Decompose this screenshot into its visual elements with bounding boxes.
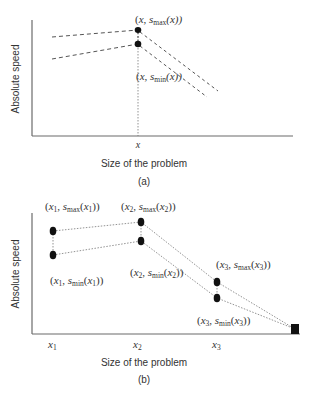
panel-b-x1-min-label: (x1, smin(x1))	[50, 274, 104, 288]
panel-a-caption: (a)	[138, 176, 150, 187]
panel-b-x-axis-label: Size of the problem	[101, 357, 187, 368]
panel-a-x-axis-label: Size of the problem	[101, 158, 187, 169]
panel-b-x3-min-marker	[214, 294, 221, 303]
panel-a-tick-x: x	[135, 139, 141, 150]
panel-b: (x1, smax(x1)) (x1, smin(x1)) (x2, smax(…	[10, 200, 300, 385]
panel-b-x3-min-label: (x3, smin(x3))	[197, 314, 251, 328]
panel-b-y-axis-label: Absolute speed	[10, 240, 21, 309]
panel-b-tick-x3: x3	[211, 338, 221, 352]
panel-a-max-marker	[135, 27, 142, 33]
panel-a: (x, smax(x)) (x, smin(x)) x Size of the …	[10, 13, 293, 187]
panel-a-min-label: (x, smin(x))	[136, 70, 182, 84]
panel-a-max-curve-right	[140, 32, 218, 91]
panel-a-min-curve-left	[52, 44, 138, 59]
panel-b-x2-max-marker	[138, 218, 145, 227]
figure-canvas: (x, smax(x)) (x, smin(x)) x Size of the …	[0, 0, 313, 393]
panel-a-y-axis-label: Absolute speed	[10, 45, 21, 114]
panel-b-x2-min-label: (x2, smin(x2))	[130, 266, 184, 280]
panel-a-min-marker	[135, 41, 142, 47]
panel-b-x2-max-label: (x2, smax(x2))	[121, 200, 176, 214]
panel-a-max-curve-left	[52, 30, 138, 37]
panel-b-x3-max-marker	[214, 278, 221, 287]
panel-b-x2-min-marker	[138, 237, 145, 246]
panel-b-caption: (b)	[138, 374, 150, 385]
panel-b-end-square-marker	[291, 324, 299, 334]
panel-b-x1-max-label: (x1, smax(x1))	[45, 200, 100, 214]
panel-b-tick-x1: x1	[47, 338, 57, 352]
panel-b-x1-max-marker	[50, 227, 57, 236]
panel-b-tick-x2: x2	[132, 338, 142, 352]
panel-b-x1-min-marker	[50, 251, 57, 260]
panel-a-max-label: (x, smax(x))	[135, 13, 182, 27]
panel-b-x3-max-label: (x3, smax(x3))	[216, 258, 271, 272]
